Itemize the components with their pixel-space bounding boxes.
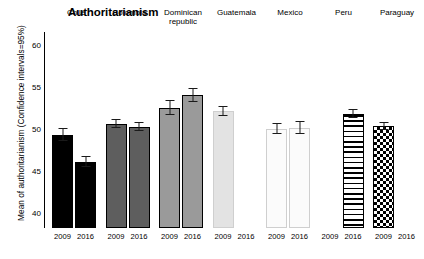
error-bar-cap-top (349, 109, 358, 110)
error-bar (135, 122, 144, 131)
y-tick-label: 55 (32, 82, 41, 91)
error-bar (58, 128, 67, 141)
error-bar-cap-bottom (349, 117, 358, 118)
bar-slot: 2016 (182, 32, 203, 228)
error-bar-cap-bottom (379, 129, 388, 130)
error-bar (188, 88, 197, 101)
error-bar-cap-top (81, 156, 90, 157)
bar (373, 126, 394, 228)
x-tick-label: 2016 (77, 232, 94, 241)
bar-slot: 2016 (343, 32, 364, 228)
bar-slot: 2016 (75, 32, 96, 228)
x-tick-label: 2009 (268, 232, 285, 241)
error-bar (272, 123, 281, 134)
x-tick-label: 2009 (375, 232, 392, 241)
error-bar (379, 122, 388, 130)
error-bar-cap-bottom (295, 133, 304, 134)
bar (213, 111, 234, 228)
bar-group: Colombia20092016 (106, 32, 154, 228)
error-bar-cap-bottom (219, 115, 228, 116)
bar-group: Chile20092016 (52, 32, 100, 228)
error-bar-cap-top (379, 122, 388, 123)
bar (129, 127, 150, 228)
bar-group: Dominican republic20092016 (159, 32, 207, 228)
y-tick-label: 50 (32, 124, 41, 133)
bar-group: Paraguay20092016 (373, 32, 421, 228)
bar-slot: 2016 (289, 32, 310, 228)
bar (266, 129, 287, 228)
bar (52, 135, 73, 228)
y-axis-label: Mean of authoritarianism (Confidence int… (16, 18, 26, 228)
x-tick-label: 2009 (215, 232, 232, 241)
bar-slot: 2016 (396, 32, 417, 228)
x-tick-label: 2016 (398, 232, 415, 241)
error-bar (165, 100, 174, 115)
bar-slot: 2009 (320, 32, 341, 228)
x-tick-label: 2016 (238, 232, 255, 241)
bar-group: Mexico20092016 (266, 32, 314, 228)
error-bar-cap-top (295, 121, 304, 122)
error-bar-cap-bottom (81, 166, 90, 167)
error-bar-stem (169, 100, 170, 115)
plot-area: 4045505560 Chile20092016Colombia20092016… (44, 32, 420, 228)
error-bar-cap-top (165, 100, 174, 101)
bar (343, 114, 364, 228)
x-tick-label: 2009 (108, 232, 125, 241)
error-bar-cap-top (188, 88, 197, 89)
y-tick-label: 60 (32, 40, 41, 49)
error-bar (349, 109, 358, 117)
bar-group: Guatemala20092016 (213, 32, 261, 228)
bar-group: Peru20092016 (320, 32, 368, 228)
error-bar-cap-top (112, 119, 121, 120)
bar-slot: 2009 (213, 32, 234, 228)
x-tick-label: 2009 (322, 232, 339, 241)
error-bar-cap-top (219, 106, 228, 107)
error-bar-cap-bottom (188, 101, 197, 102)
error-bar-cap-top (272, 123, 281, 124)
error-bar (219, 106, 228, 116)
bar-slot: 2016 (129, 32, 150, 228)
group-label: Paraguay (362, 8, 424, 17)
y-tick-label: 40 (32, 208, 41, 217)
error-bar-cap-top (135, 122, 144, 123)
bar-slot: 2016 (236, 32, 257, 228)
x-tick-label: 2016 (345, 232, 362, 241)
y-axis-line (44, 32, 45, 228)
bar (159, 108, 180, 228)
bar (106, 124, 127, 228)
error-bar (295, 121, 304, 134)
y-tick-label: 45 (32, 166, 41, 175)
error-bar (81, 156, 90, 167)
error-bar (112, 119, 121, 127)
error-bar-cap-top (58, 128, 67, 129)
x-tick-label: 2016 (131, 232, 148, 241)
x-tick-label: 2016 (291, 232, 308, 241)
bar (75, 162, 96, 228)
x-tick-label: 2009 (54, 232, 71, 241)
bar-slot: 2009 (106, 32, 127, 228)
bar-slot: 2009 (159, 32, 180, 228)
error-bar-cap-bottom (112, 127, 121, 128)
chart-container: Authoritarianism Mean of authoritarianis… (0, 0, 424, 259)
x-tick-label: 2016 (184, 232, 201, 241)
bar-slot: 2009 (52, 32, 73, 228)
error-bar-stem (192, 88, 193, 101)
bar (289, 128, 310, 228)
bar (182, 95, 203, 228)
error-bar-cap-bottom (58, 140, 67, 141)
bar-slot: 2009 (373, 32, 394, 228)
error-bar-cap-bottom (165, 114, 174, 115)
x-tick-label: 2009 (161, 232, 178, 241)
bar-slot: 2009 (266, 32, 287, 228)
error-bar-cap-bottom (135, 130, 144, 131)
error-bar-cap-bottom (272, 133, 281, 134)
